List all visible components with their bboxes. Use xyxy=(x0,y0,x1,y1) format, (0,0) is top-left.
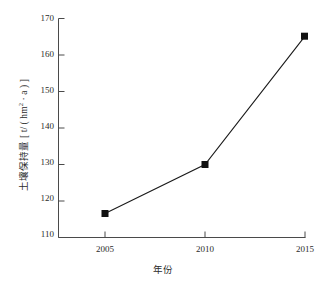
y-axis-ticks xyxy=(59,19,65,238)
data-point-2015 xyxy=(301,33,308,40)
chart-figure: 土壤保持量 [ t/ ( hm2 · a ) ] 170 160 150 140… xyxy=(0,0,325,290)
data-series-line xyxy=(105,36,305,213)
x-axis-ticks xyxy=(105,232,305,238)
data-point-2010 xyxy=(202,161,209,168)
data-point-2005 xyxy=(102,210,109,217)
axis-spines xyxy=(59,19,306,238)
plot-area xyxy=(0,0,325,290)
